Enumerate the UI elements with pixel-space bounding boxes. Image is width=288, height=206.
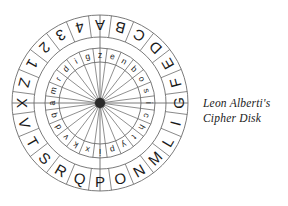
outer-ring-cell: G (170, 97, 187, 109)
inner-ring-divider (141, 108, 155, 110)
inner-ring-cell: o (136, 74, 147, 83)
inner-ring-divider (93, 48, 95, 62)
inner-ring-cell: d (60, 63, 71, 74)
inner-ring-divider (45, 96, 59, 98)
outer-ring-divider (13, 112, 35, 115)
outer-ring-cell: Q (72, 169, 88, 188)
outer-ring-cell: 2 (36, 39, 54, 57)
inner-ring-divider (45, 108, 59, 110)
outer-ring-cell: O (112, 169, 128, 188)
inner-ring-cell: x (83, 144, 90, 155)
inner-ring-cell: v (60, 132, 71, 143)
inner-ring-cell: i (99, 147, 101, 157)
inner-ring-cell: z (98, 50, 102, 60)
inner-ring-cell: i (72, 56, 79, 66)
inner-ring-divider (105, 144, 107, 158)
inner-ring-cell: h (136, 123, 147, 132)
center-hub-icon (95, 98, 105, 108)
inner-ring-cell: d (52, 122, 63, 131)
outer-ring-divider (165, 112, 187, 115)
inner-ring-cell: s (141, 87, 152, 94)
outer-ring-cell: X (14, 98, 31, 108)
outer-ring-cell: T (23, 134, 42, 150)
caption-line-2: Cipher Disk (203, 111, 288, 126)
outer-ring-cell: Z (15, 76, 34, 89)
inner-ring-cell: i (144, 102, 154, 104)
cipher-disk-figure: ABCDEFGILMNOPQRSTVXZ1234zenbosichtypixkv… (0, 0, 200, 206)
inner-ring-cell: b (129, 63, 140, 74)
outer-ring-cell: I (167, 119, 185, 127)
outer-ring-cell: V (15, 116, 34, 130)
figure-caption: Leon Alberti's Cipher Disk (203, 96, 288, 126)
inner-ring-divider (141, 96, 155, 98)
inner-ring-divider (138, 82, 151, 87)
outer-ring-divider (89, 16, 92, 38)
inner-ring-cell: y (119, 140, 128, 151)
caption-line-1: Leon Alberti's (203, 96, 288, 111)
outer-ring-cell: N (130, 160, 148, 180)
outer-ring-cell: F (166, 76, 185, 89)
inner-ring-cell: r (53, 75, 63, 83)
inner-ring-cell: e (109, 51, 116, 62)
outer-ring-cell: A (95, 17, 105, 34)
outer-ring-cell: E (158, 55, 178, 72)
inner-ring-cell: g (84, 51, 91, 62)
outer-ring-cell: 1 (23, 56, 42, 72)
outer-ring-cell: 4 (74, 18, 86, 37)
outer-ring-cell: S (35, 149, 54, 168)
cipher-disk-svg: ABCDEFGILMNOPQRSTVXZ1234zenbosichtypixkv… (0, 0, 200, 206)
inner-ring-cell: p (109, 144, 116, 155)
outer-ring-divider (89, 168, 92, 190)
outer-ring-cell: R (52, 160, 70, 180)
outer-ring-cell: B (113, 18, 127, 37)
inner-ring-cell: m (47, 86, 58, 95)
inner-ring-cell: n (120, 55, 129, 66)
outer-ring-cell: C (130, 25, 148, 45)
inner-ring-cell: t (129, 133, 138, 142)
outer-ring-cell: L (158, 134, 177, 150)
inner-ring-divider (93, 144, 95, 158)
outer-ring-divider (165, 92, 187, 95)
inner-ring-cell: a (47, 100, 57, 105)
inner-ring-cell: q (48, 112, 59, 119)
outer-ring-divider (109, 168, 112, 190)
outer-ring-cell: P (95, 173, 105, 190)
outer-ring-divider (109, 16, 112, 38)
inner-ring-cell: c (141, 112, 152, 119)
inner-ring-divider (105, 48, 107, 62)
outer-ring-cell: 3 (53, 26, 69, 45)
inner-ring-cell: k (71, 139, 80, 150)
outer-ring-divider (13, 92, 35, 95)
